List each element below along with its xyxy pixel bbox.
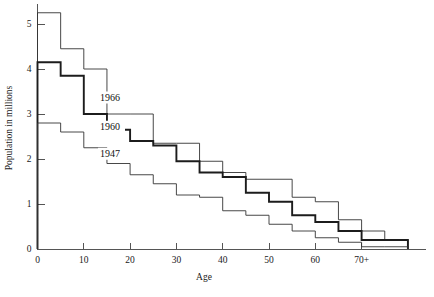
y-axis-title: Population in millions [4,85,14,170]
x-tick-label-0: 0 [35,255,40,265]
x-tick-label-40: 40 [218,255,228,265]
series-label-1947: 1947 [100,148,120,159]
y-tick-label-1: 1 [27,199,32,209]
x-tick-label-70+: 70+ [354,255,369,265]
y-tick-label-4: 4 [27,64,32,74]
x-tick-label-10: 10 [79,255,89,265]
series-line-1966 [38,13,408,249]
series-line-1960 [38,62,408,249]
y-tick-label-5: 5 [27,19,32,29]
x-tick-label-30: 30 [172,255,182,265]
y-tick-label-0: 0 [27,244,32,254]
axes-group [37,4,426,250]
series-annotations-group: 196619601947 [98,92,125,160]
x-tick-label-60: 60 [311,255,321,265]
chart-plot-area: 012345 010203040506070+ 196619601947 Age… [0,0,434,297]
y-tick-label-2: 2 [27,154,32,164]
series-label-1960: 1960 [100,121,120,132]
y-ticks-group: 012345 [27,19,45,254]
x-axis-title: Age [196,272,212,282]
y-tick-label-3: 3 [27,109,32,119]
series-group [38,13,408,249]
population-age-chart: 012345 010203040506070+ 196619601947 Age… [0,0,434,297]
x-tick-label-50: 50 [264,255,274,265]
x-ticks-group: 010203040506070+ [35,243,369,265]
x-tick-label-20: 20 [125,255,135,265]
series-label-1966: 1966 [100,92,120,103]
